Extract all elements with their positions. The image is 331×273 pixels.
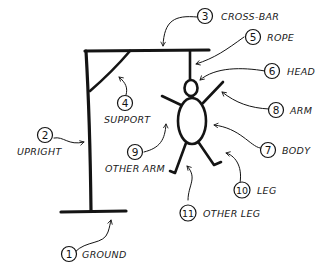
callout-number: 3 [202, 10, 209, 22]
arrow-upright [54, 138, 84, 143]
callout-number: 11 [182, 208, 194, 219]
hangman-diagram: 1 GROUND 2 UPRIGHT 3 CROSS-BAR 4 SUPPORT… [0, 0, 331, 273]
callout-other-leg: 11 OTHER LEG [180, 205, 260, 221]
arrow-other-leg [187, 166, 192, 200]
callout-label: OTHER LEG [203, 208, 260, 219]
callout-label: BODY [282, 145, 311, 156]
callout-label: UPRIGHT [17, 146, 62, 157]
callout-other-arm: 9 OTHER ARM [105, 145, 165, 175]
callout-number: 2 [42, 129, 49, 141]
ground-line [61, 211, 126, 212]
leg [199, 143, 221, 165]
arrow-leg [226, 153, 241, 183]
head [185, 80, 198, 96]
other-leg [170, 143, 186, 173]
callout-arm: 8 ARM [269, 103, 313, 118]
upright-post [86, 51, 91, 211]
callout-support: 4 SUPPORT [104, 96, 151, 126]
arm [203, 82, 223, 103]
gallows [61, 50, 209, 212]
callout-ground: 1 GROUND [62, 247, 127, 262]
callout-number: 10 [236, 185, 248, 196]
callout-label: GROUND [82, 249, 127, 260]
callout-body: 7 BODY [261, 143, 312, 158]
arrow-arm [222, 92, 269, 109]
arrow-body [214, 125, 260, 148]
arrow-other-arm [144, 124, 166, 152]
callout-rope: 5 ROPE [246, 30, 295, 45]
callout-label: LEG [257, 185, 277, 196]
callout-label: SUPPORT [104, 114, 151, 125]
callout-number: 4 [122, 97, 129, 109]
other-arm [162, 96, 181, 105]
callout-label: HEAD [287, 66, 315, 77]
callout-number: 6 [269, 65, 276, 77]
callout-number: 1 [66, 248, 73, 260]
callout-cross-bar: 3 CROSS-BAR [198, 9, 280, 24]
arrow-cross-bar [163, 17, 197, 46]
callout-number: 5 [250, 31, 257, 43]
callout-label: ARM [289, 105, 312, 116]
callout-label: OTHER ARM [105, 163, 165, 174]
callout-leg: 10 LEG [234, 182, 277, 198]
arrow-head [200, 69, 265, 80]
callout-number: 8 [273, 104, 280, 116]
callout-number: 7 [265, 144, 272, 156]
stick-figure [162, 80, 223, 173]
arrow-ground [75, 220, 111, 252]
callout-upright: 2 UPRIGHT [17, 128, 62, 158]
callout-label: CROSS-BAR [221, 11, 279, 22]
support-brace [90, 51, 130, 91]
callout-number: 9 [132, 146, 139, 158]
arrow-support [119, 77, 127, 95]
callout-label: ROPE [267, 32, 294, 43]
callout-head: 6 HEAD [265, 64, 316, 79]
